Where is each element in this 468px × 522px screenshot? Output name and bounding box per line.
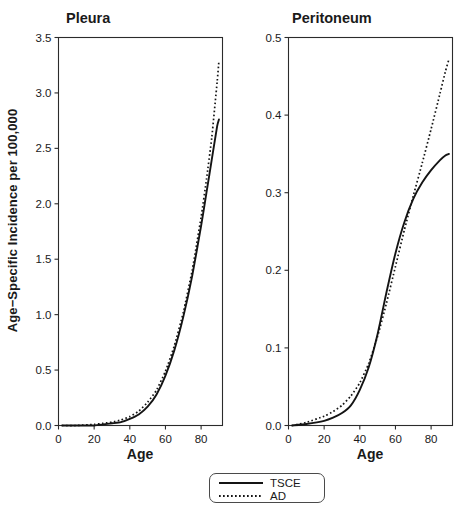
- figure-container: Age−Specific Incidence per 100,000 Pleur…: [0, 0, 468, 522]
- x-tick-label: 80: [425, 433, 438, 445]
- x-tick-label: 20: [318, 433, 331, 445]
- legend-swatch-solid-icon: [218, 478, 264, 488]
- plot-frame: [289, 38, 453, 426]
- y-tick-label: 0.3: [266, 187, 282, 199]
- y-tick-label: 3.0: [36, 87, 52, 99]
- y-tick-label: 0.5: [36, 364, 52, 376]
- curve-tsce: [292, 154, 449, 426]
- y-tick-label: 2.0: [36, 198, 52, 210]
- curve-tsce: [62, 120, 219, 426]
- curve-ad: [62, 61, 219, 426]
- x-tick-label: 80: [195, 433, 208, 445]
- x-tick-label: 60: [159, 433, 172, 445]
- x-tick-label: 60: [389, 433, 402, 445]
- y-tick-label: 0.4: [266, 109, 283, 121]
- x-tick-label: 20: [88, 433, 101, 445]
- x-tick-label: 0: [55, 433, 61, 445]
- y-tick-label: 0.0: [266, 420, 282, 432]
- panel-peritoneum: 0.00.10.20.30.40.5020406080: [266, 32, 453, 445]
- legend-entry-ad: AD: [218, 489, 286, 502]
- legend-label-tsce: TSCE: [270, 477, 301, 489]
- panel-title-peritoneum: Peritoneum: [292, 10, 372, 26]
- y-tick-label: 1.0: [36, 309, 52, 321]
- legend-entry-tsce: TSCE: [218, 476, 301, 489]
- x-tick-label: 40: [123, 433, 136, 445]
- curve-ad: [292, 59, 449, 425]
- x-axis-label-pleura: Age: [90, 446, 190, 462]
- y-tick-label: 0.1: [266, 342, 282, 354]
- plot-frame: [59, 38, 223, 426]
- panel-title-pleura: Pleura: [66, 10, 110, 26]
- panel-pleura: 0.00.51.01.52.02.53.03.5020406080: [36, 32, 223, 445]
- legend: TSCE AD: [209, 473, 325, 503]
- x-tick-label: 40: [353, 433, 366, 445]
- y-tick-label: 0.5: [266, 32, 282, 44]
- x-tick-label: 0: [285, 433, 291, 445]
- y-tick-label: 2.5: [36, 142, 52, 154]
- y-tick-label: 0.2: [266, 264, 282, 276]
- legend-swatch-dotted-icon: [218, 491, 264, 501]
- x-axis-label-peritoneum: Age: [320, 446, 420, 462]
- y-tick-label: 3.5: [36, 32, 52, 44]
- legend-label-ad: AD: [270, 490, 286, 502]
- y-tick-label: 0.0: [36, 420, 52, 432]
- plot-area-pleura: 0.00.51.01.52.02.53.03.50204060800.00.10…: [0, 0, 468, 522]
- y-tick-label: 1.5: [36, 253, 52, 265]
- y-axis-label: Age−Specific Incidence per 100,000: [6, 108, 21, 331]
- y-axis-label-container: Age−Specific Incidence per 100,000: [0, 0, 26, 440]
